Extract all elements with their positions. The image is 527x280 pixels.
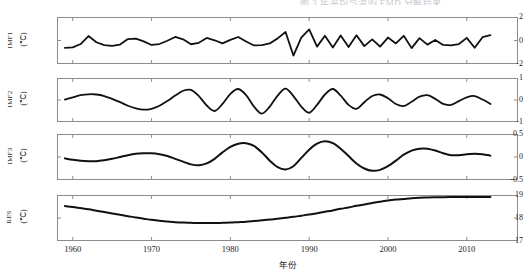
panel-imf2 (57, 78, 518, 122)
y-tick-label: 0.5 (513, 130, 523, 138)
y-tick-label: -2 (516, 60, 523, 68)
panel-label-imf1: IMF1 (6, 31, 14, 48)
x-tick-label: 1960 (53, 245, 93, 254)
panel-unit-imf1: (℃) (19, 32, 28, 46)
y-tick-label: 1 (519, 74, 523, 82)
series-res (57, 195, 518, 241)
x-tick-label: 2000 (368, 245, 408, 254)
y-tick-label: 18 (515, 214, 523, 222)
panel-unit-res: (℃) (19, 210, 28, 224)
data-line (65, 141, 491, 171)
series-imf3 (57, 134, 518, 180)
y-tick-label: 19 (515, 191, 523, 199)
y-tick-label: 17 (515, 237, 523, 245)
y-tick-label: 0 (519, 96, 523, 104)
y-tick-label: 0 (519, 37, 523, 45)
figure-caption-cropped: 图 3 年平均气温的 EMD 分解结果 (300, 0, 520, 5)
panel-unit-imf3: (℃) (19, 149, 28, 163)
x-tick-label: 1970 (132, 245, 172, 254)
data-line (65, 89, 491, 114)
x-tick-label: 1990 (289, 245, 329, 254)
panel-label-res: RES (5, 210, 13, 223)
x-tick-label: 1980 (210, 245, 250, 254)
data-line (65, 29, 491, 55)
panel-unit-imf2: (℃) (19, 92, 28, 106)
x-tick-label: 2010 (447, 245, 487, 254)
data-line (65, 197, 491, 223)
y-tick-label: 2 (519, 13, 523, 21)
series-imf2 (57, 78, 518, 122)
y-tick-label: -1 (516, 118, 523, 126)
panel-imf1 (57, 17, 518, 64)
series-imf1 (57, 17, 518, 64)
y-tick-label: 0 (519, 153, 523, 161)
panel-label-imf3: IMF3 (6, 148, 14, 165)
panel-imf3 (57, 134, 518, 180)
y-tick-label: -0.5 (510, 176, 523, 184)
panel-res (57, 195, 518, 241)
x-axis-label: 年份 (248, 258, 328, 270)
emd-decomposition-figure: 图 3 年平均气温的 EMD 分解结果 19601970198019902000… (0, 0, 527, 280)
panel-label-imf2: IMF2 (6, 91, 14, 108)
